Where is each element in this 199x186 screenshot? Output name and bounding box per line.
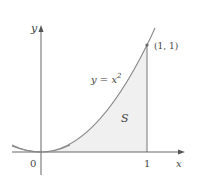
point-1-1 [145,43,148,46]
x-axis-arrow-icon [178,150,185,155]
origin-label: 0 [30,158,36,169]
y-axis-arrow-icon [39,25,44,32]
region-s-fill [41,45,147,152]
parabola-area-diagram: y (1, 1) y = x2 S 0 1 x [0,0,199,186]
y-axis-label: y [30,22,38,35]
curve-label-exponent: 2 [116,72,122,80]
point-label: (1, 1) [154,41,178,51]
curve-label: y = x2 [90,72,122,85]
x-axis-label: x [176,158,182,169]
region-label: S [121,112,129,125]
curve-label-base: y = x [90,74,117,85]
x-tick-label: 1 [144,158,150,169]
